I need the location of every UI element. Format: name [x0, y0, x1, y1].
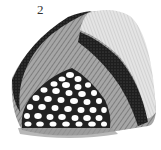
base-fringe [18, 128, 118, 138]
section-drawing [0, 0, 161, 150]
illustration-figure: 2 [0, 0, 161, 150]
